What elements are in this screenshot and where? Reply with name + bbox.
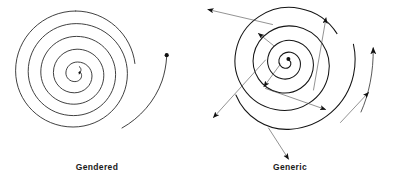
gendered-endpoint-dot xyxy=(165,53,169,57)
caption-generic: Generic xyxy=(191,162,389,172)
gendered-spiral-end-stroke xyxy=(122,58,167,129)
tangent-arrow-4 xyxy=(264,64,281,87)
tangent-arrow-6 xyxy=(266,89,326,110)
panel-gendered: Gendered xyxy=(0,0,198,186)
generic-spiral-svg xyxy=(197,0,395,186)
panel-generic: Generic xyxy=(197,0,395,186)
tangent-arrow-3 xyxy=(314,18,327,90)
tangent-arrow-8 xyxy=(269,128,289,159)
gendered-center-dot xyxy=(78,72,80,74)
generic-center-dot xyxy=(286,57,290,61)
gendered-spiral-path xyxy=(16,11,128,127)
gendered-spiral-svg xyxy=(0,0,198,186)
caption-gendered: Gendered xyxy=(0,162,196,172)
tangent-arrow-1 xyxy=(208,10,273,25)
tangent-arrow-5 xyxy=(214,60,266,118)
generic-spiral-terminal-arrow xyxy=(361,48,373,112)
spiral-figure: Gendered xyxy=(0,0,395,186)
generic-spiral-curve xyxy=(235,7,337,110)
